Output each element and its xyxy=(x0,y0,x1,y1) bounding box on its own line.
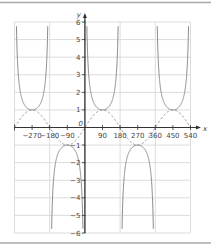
x-axis-arrow-icon xyxy=(196,126,201,130)
y-tick-label: −3 xyxy=(70,177,80,185)
y-tick-label: −2 xyxy=(70,159,80,167)
cosec-branch xyxy=(157,26,188,110)
y-tick-label: −1 xyxy=(70,142,80,150)
cosec-branch xyxy=(87,26,118,110)
x-tick-label: −180 xyxy=(40,132,59,140)
y-tick-label: 4 xyxy=(76,54,81,62)
x-tick-label: 270 xyxy=(131,132,144,140)
x-tick-label: 450 xyxy=(166,132,179,140)
x-tick-label: −90 xyxy=(60,132,75,140)
y-axis-arrow-icon xyxy=(83,13,87,18)
chart-figure: −270−180−9090180270360450540654321−1−2−3… xyxy=(0,0,211,246)
chart-canvas: −270−180−9090180270360450540654321−1−2−3… xyxy=(0,0,211,246)
cosec-branch xyxy=(122,145,153,229)
y-axis-label: y xyxy=(76,11,82,19)
y-tick-label: 5 xyxy=(76,36,80,44)
tick-labels: −270−180−9090180270360450540654321−1−2−3… xyxy=(22,11,208,238)
origin-label: 0 xyxy=(78,120,83,128)
x-tick-label: 90 xyxy=(98,132,107,140)
x-tick-label: −270 xyxy=(22,132,41,140)
y-tick-label: 3 xyxy=(76,71,80,79)
axes xyxy=(15,13,202,233)
x-tick-label: 180 xyxy=(113,132,126,140)
x-axis-label: x xyxy=(202,125,208,133)
y-tick-label: 6 xyxy=(76,19,81,27)
y-tick-label: 1 xyxy=(76,106,80,114)
y-tick-label: −4 xyxy=(70,194,81,202)
cosec-branch xyxy=(16,26,47,110)
y-tick-label: −6 xyxy=(70,230,81,238)
y-tick-label: 2 xyxy=(76,89,80,97)
x-tick-label: 540 xyxy=(184,132,197,140)
x-tick-label: 360 xyxy=(149,132,162,140)
y-tick-label: −5 xyxy=(70,212,80,220)
